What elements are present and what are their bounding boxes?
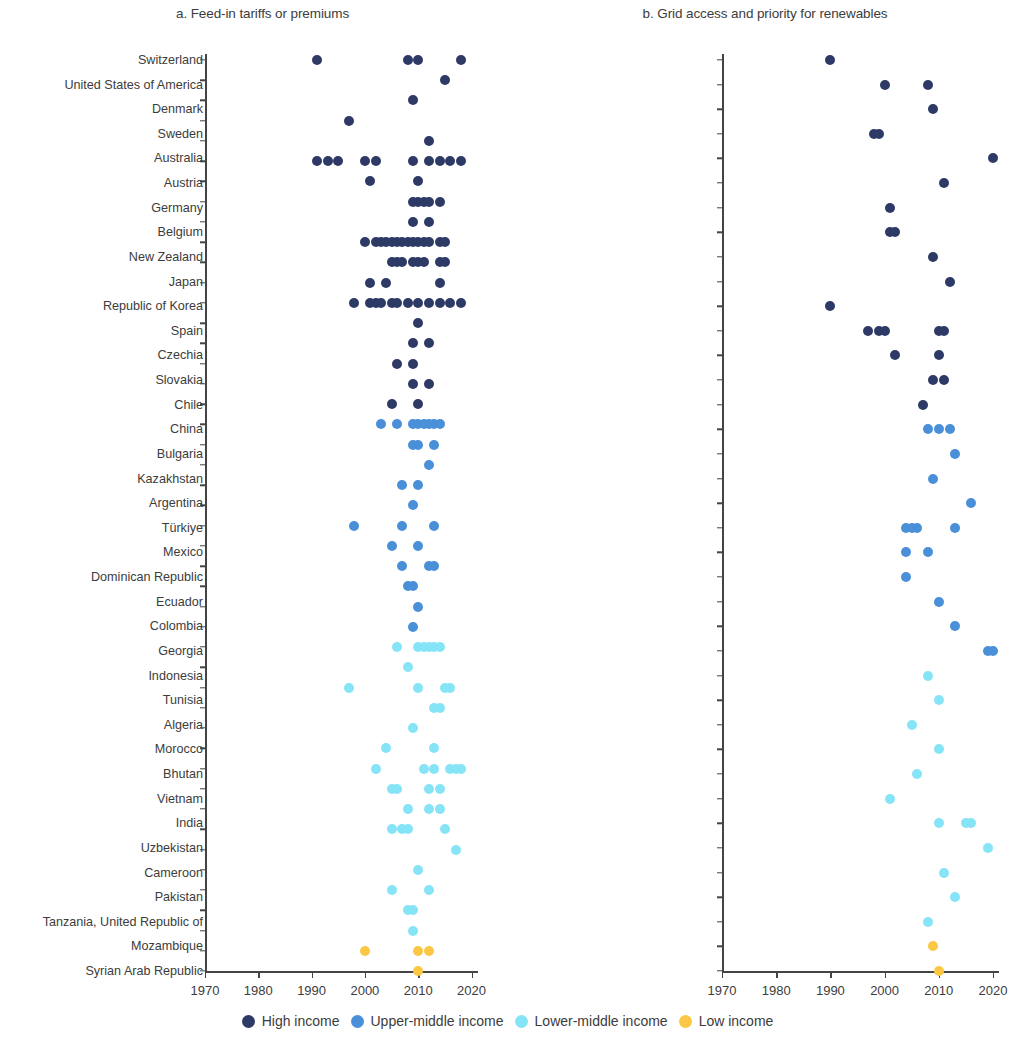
x-axis-tick-label: 1970 <box>708 983 737 998</box>
data-point <box>988 646 998 656</box>
x-axis-tick-label: 1990 <box>297 983 326 998</box>
data-point <box>923 547 933 557</box>
data-point <box>885 203 895 213</box>
data-point <box>934 350 944 360</box>
x-axis-tick-label: 1980 <box>244 983 273 998</box>
data-point <box>413 541 423 551</box>
y-axis-tick <box>200 221 205 222</box>
y-axis-tick <box>717 502 722 503</box>
y-axis-tick <box>717 823 722 824</box>
data-point <box>381 743 391 753</box>
x-axis-tick <box>258 972 259 978</box>
data-point <box>939 326 949 336</box>
data-point <box>424 298 434 308</box>
y-axis-tick <box>717 921 722 922</box>
category-label: Mozambique <box>131 940 203 952</box>
category-label: Sweden <box>157 128 203 140</box>
x-axis-tick <box>312 972 313 978</box>
legend-swatch-icon <box>679 1015 692 1028</box>
data-point <box>424 885 434 895</box>
data-point <box>435 804 445 814</box>
data-point <box>912 523 922 533</box>
category-label: Austria <box>164 177 203 189</box>
data-point <box>429 561 439 571</box>
data-point <box>381 278 391 288</box>
category-label: Slovakia <box>155 374 203 386</box>
data-point <box>360 946 370 956</box>
data-point <box>413 966 423 976</box>
legend-item: Upper-middle income <box>351 1013 504 1029</box>
y-axis-tick <box>717 798 722 799</box>
category-label: China <box>170 423 203 435</box>
data-point <box>429 521 439 531</box>
category-label: Ecuador <box>156 596 203 608</box>
category-label: Republic of Korea <box>103 300 203 312</box>
y-axis-tick <box>717 946 722 947</box>
y-axis-tick <box>717 109 722 110</box>
y-axis-tick <box>717 158 722 159</box>
data-point <box>923 671 933 681</box>
data-point <box>950 523 960 533</box>
legend-swatch-icon <box>351 1015 364 1028</box>
data-point <box>403 55 413 65</box>
category-label: Vietnam <box>157 793 203 805</box>
data-point <box>413 865 423 875</box>
data-point <box>413 946 423 956</box>
y-axis-tick <box>717 773 722 774</box>
data-point <box>397 480 407 490</box>
data-point <box>950 449 960 459</box>
category-label: Pakistan <box>155 891 203 903</box>
data-point <box>435 298 445 308</box>
data-point <box>403 804 413 814</box>
data-point <box>333 156 343 166</box>
data-point <box>344 116 354 126</box>
x-axis-tick <box>993 972 994 978</box>
data-point <box>312 156 322 166</box>
category-label: Czechia <box>158 349 204 361</box>
data-point <box>413 440 423 450</box>
legend-item: Low income <box>679 1013 774 1029</box>
panel-b-title: b. Grid access and priority for renewabl… <box>515 6 1015 21</box>
data-point <box>419 257 429 267</box>
y-axis-tick <box>717 84 722 85</box>
data-point <box>365 176 375 186</box>
data-point <box>413 399 423 409</box>
category-label: Bhutan <box>163 768 203 780</box>
data-point <box>939 375 949 385</box>
data-point <box>934 744 944 754</box>
data-point <box>440 75 450 85</box>
y-axis-tick <box>717 626 722 627</box>
data-point <box>934 695 944 705</box>
data-point <box>360 237 370 247</box>
category-label: Argentina <box>149 497 203 509</box>
data-point <box>349 521 359 531</box>
data-point <box>918 400 928 410</box>
y-axis-tick <box>717 281 722 282</box>
data-point <box>456 764 466 774</box>
data-point <box>939 868 949 878</box>
data-point <box>413 176 423 186</box>
data-point <box>825 301 835 311</box>
y-axis-tick <box>717 207 722 208</box>
x-axis-tick <box>776 972 777 978</box>
data-point <box>408 500 418 510</box>
category-label: Japan <box>169 276 203 288</box>
data-point <box>966 818 976 828</box>
data-point <box>928 375 938 385</box>
data-point <box>923 80 933 90</box>
data-point <box>408 581 418 591</box>
data-point <box>397 257 407 267</box>
data-point <box>413 480 423 490</box>
y-axis-tick <box>717 133 722 134</box>
data-point <box>376 419 386 429</box>
data-point <box>928 941 938 951</box>
y-axis-line <box>205 54 207 971</box>
data-point <box>403 298 413 308</box>
data-point <box>424 460 434 470</box>
data-point <box>923 424 933 434</box>
data-point <box>456 55 466 65</box>
data-point <box>934 424 944 434</box>
legend: High incomeUpper-middle incomeLower-midd… <box>0 1013 1015 1029</box>
data-point <box>907 720 917 730</box>
data-point <box>934 966 944 976</box>
